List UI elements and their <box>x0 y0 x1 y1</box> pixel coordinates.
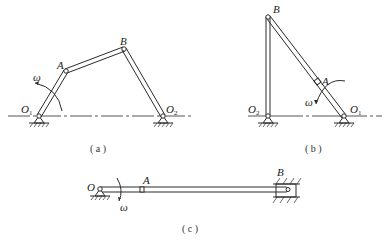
mechanism-diagrams: ω O1 A B O2 ( a ) ω O2 A B O1 ( b ) <box>0 0 388 250</box>
label-a: A <box>56 59 64 71</box>
joint-b <box>266 15 270 19</box>
figure-b: ω O2 A B O1 ( b ) <box>248 3 382 155</box>
omega-label: ω <box>120 201 128 213</box>
slider-a <box>140 187 144 192</box>
omega-label: ω <box>33 71 41 83</box>
label-o2: O2 <box>248 103 260 117</box>
link-b-o2 <box>122 48 165 117</box>
caption-a: ( a ) <box>90 143 106 155</box>
label-b: B <box>273 3 280 15</box>
caption-b: ( b ) <box>305 143 322 155</box>
label-a: A <box>321 75 329 87</box>
link-o2-b <box>266 17 270 115</box>
joint-b <box>122 47 126 51</box>
label-b: B <box>120 35 127 47</box>
joint-a <box>64 69 68 73</box>
caption-c: ( c ) <box>182 223 198 235</box>
omega-arc <box>316 80 345 104</box>
omega-arc <box>35 83 62 111</box>
label-o1: O1 <box>350 103 362 117</box>
link-a-b <box>65 47 125 73</box>
label-b: B <box>277 166 284 178</box>
label-o2: O2 <box>166 103 178 117</box>
joint-b <box>286 188 290 192</box>
link-o1-a <box>37 70 68 117</box>
label-o1: O1 <box>21 103 33 117</box>
omega-arrow-icon <box>314 100 318 104</box>
label-o: O <box>87 181 95 193</box>
omega-label: ω <box>305 96 313 108</box>
label-a: A <box>142 174 150 186</box>
slider-a <box>314 78 321 85</box>
link-o-b <box>100 187 289 192</box>
figure-c: ω O A B ( c ) <box>87 166 301 235</box>
figure-a: ω O1 A B O2 ( a ) <box>8 35 192 155</box>
